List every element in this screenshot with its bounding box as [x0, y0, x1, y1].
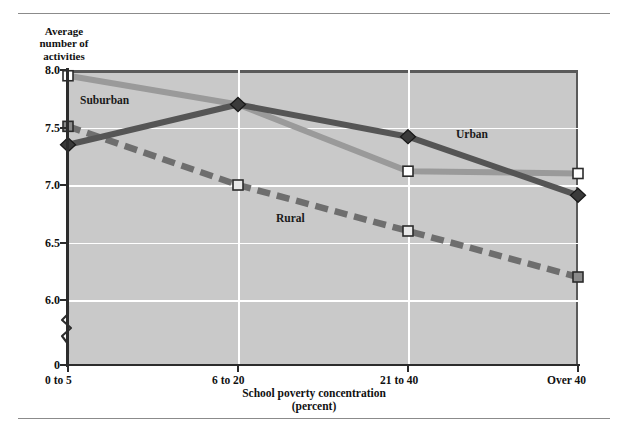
- x-tick-21-to-40: [407, 365, 409, 372]
- y-tick-label-6.0: 6.0: [18, 293, 60, 308]
- x-tick-label-0-to-5: 0 to 5: [45, 374, 72, 386]
- y-tick-7.0: [60, 184, 68, 186]
- y-tick-6.5: [60, 242, 68, 244]
- y-tick-7.5: [60, 127, 68, 129]
- figure-container: Average number of activities: [0, 0, 628, 432]
- series-label-rural: Rural: [276, 212, 305, 224]
- top-divider-rule: [18, 13, 610, 14]
- y-axis-break-icon: [58, 306, 78, 354]
- x-tick-label-6-to-20: 6 to 20: [212, 374, 245, 386]
- y-axis-title-line-3: activities: [22, 50, 106, 62]
- y-axis-title-line-2: number of: [22, 37, 106, 49]
- x-axis-line: [66, 364, 580, 367]
- y-axis-title-line-1: Average: [22, 25, 106, 37]
- x-tick-label-over-40: Over 40: [547, 374, 586, 386]
- series-line-rural: [68, 126, 578, 277]
- marker-rural-21-to-40: [403, 226, 413, 236]
- y-tick-label-0: 0: [18, 358, 60, 373]
- series-overlay: [68, 70, 578, 365]
- y-tick-6.0: [60, 299, 68, 301]
- x-tick-over-40: [577, 365, 579, 372]
- series-label-suburban: Suburban: [80, 94, 129, 106]
- marker-rural-over-40: [573, 272, 583, 282]
- marker-rural-6-to-20: [233, 180, 243, 190]
- y-tick-8.0: [60, 69, 68, 71]
- plot-area: Suburban Urban Rural: [68, 70, 578, 365]
- y-tick-label-7.5: 7.5: [18, 121, 60, 136]
- y-axis-title: Average number of activities: [22, 25, 106, 62]
- y-tick-label-8.0: 8.0: [18, 63, 60, 78]
- x-tick-6-to-20: [237, 365, 239, 372]
- y-tick-label-6.5: 6.5: [18, 236, 60, 251]
- x-tick-label-21-to-40: 21 to 40: [380, 374, 418, 386]
- x-axis-title: School poverty concentration (percent): [0, 387, 628, 413]
- series-label-urban: Urban: [456, 128, 488, 140]
- y-tick-label-7.0: 7.0: [18, 178, 60, 193]
- bottom-divider-rule: [18, 418, 610, 419]
- cropped-title-remnant: [150, 0, 490, 5]
- marker-suburban-21-to-40: [403, 166, 413, 176]
- marker-suburban-over-40: [573, 169, 583, 179]
- x-axis-title-line-2: (percent): [0, 400, 628, 413]
- x-axis-title-line-1: School poverty concentration: [0, 387, 628, 400]
- x-tick-0-to-5: [67, 365, 69, 372]
